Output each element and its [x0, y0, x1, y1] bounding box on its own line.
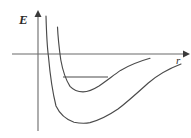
lower-potential-curve: [46, 16, 181, 123]
distance-axis-label: r: [176, 55, 180, 66]
distance-axis-arrowhead: [183, 50, 190, 57]
diagram-canvas: [0, 0, 191, 138]
potential-energy-diagram: E r: [0, 0, 191, 138]
energy-axis-label: E: [19, 13, 28, 26]
energy-axis-arrowhead: [35, 10, 42, 17]
distance-axis: [12, 50, 190, 57]
energy-axis: [35, 10, 42, 131]
upper-potential-curve: [58, 27, 151, 92]
